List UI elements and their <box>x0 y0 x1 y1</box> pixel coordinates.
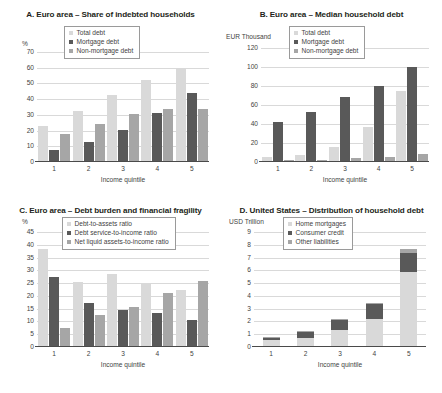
panel-a-bars <box>37 52 209 162</box>
panel-c-legend: Debt-to-assets ratio Debt service-to-inc… <box>62 217 176 250</box>
panel-a-ytick: 10 <box>27 143 34 150</box>
panel-a-title: A. Euro area – Share of indebted househo… <box>0 10 221 19</box>
legend-item-consumer-credit: Consumer credit <box>288 230 346 237</box>
panel-d-xtick: 1 <box>254 350 288 357</box>
panel-c-xtick: 4 <box>140 350 174 357</box>
panel-c-debt-burden-and-financial-fragility: C. Euro area – Debt burden and financial… <box>0 196 221 393</box>
legend-label: Consumer credit <box>296 230 344 237</box>
panel-c-ytick: 35 <box>27 254 34 261</box>
segment-home-mortgages <box>366 319 383 347</box>
panel-d-x-axis <box>252 346 426 347</box>
panel-b-ytick: 100 <box>247 64 258 71</box>
legend-item-mortgage-debt: Mortgage debt <box>294 39 358 46</box>
bar-mortgage-debt <box>152 113 162 162</box>
panel-c-xtick: 1 <box>37 350 71 357</box>
panel-c-title: C. Euro area – Debt burden and financial… <box>0 206 221 215</box>
legend-swatch-icon <box>67 222 71 226</box>
bar-mortgage-debt <box>84 142 94 162</box>
legend-swatch-icon <box>294 31 298 35</box>
panel-a-x-axis <box>35 161 209 162</box>
legend-swatch-icon <box>69 49 73 53</box>
bar-net-liquid-assets-to-income-ratio <box>95 315 105 347</box>
panel-c-xtick: 2 <box>71 350 105 357</box>
panel-b-ytick: 80 <box>251 83 258 90</box>
panel-b-x-axis-title: Income quintile <box>261 176 429 183</box>
panel-d-ytick: 1 <box>247 331 251 338</box>
legend-item-other-liabilities: Other liabilities <box>288 239 346 246</box>
panel-b-ytick: 0 <box>254 159 258 166</box>
bar-mortgage-debt <box>273 122 283 162</box>
panel-b-bars <box>261 48 429 162</box>
legend-label: Debt-to-assets ratio <box>75 221 133 228</box>
panel-a-ytick: 60 <box>27 64 34 71</box>
panel-b-xtick: 3 <box>328 165 362 172</box>
bar-mortgage-debt <box>340 97 350 162</box>
legend-label: Home mortgages <box>296 221 347 228</box>
bar-debt-service-to-income-ratio <box>187 320 197 347</box>
panel-a-ytick: 30 <box>27 112 34 119</box>
panel-c-x-axis-title: Income quintile <box>37 361 209 368</box>
legend-item-net-liquid-assets-to-income-ratio: Net liquid assets-to-income ratio <box>67 239 169 246</box>
segment-consumer-credit <box>400 253 417 272</box>
bar-mortgage-debt <box>118 130 128 162</box>
panel-b-title: B. Euro area – Median household debt <box>221 10 442 19</box>
legend-label: Other liabilities <box>296 239 339 246</box>
panel-c-ytick: 20 <box>27 293 34 300</box>
panel-d-ytick: 7 <box>247 254 251 261</box>
panel-b-xtick: 1 <box>261 165 295 172</box>
legend-item-mortgage-debt: Mortgage debt <box>69 39 133 46</box>
panel-b-bar-group <box>295 48 327 162</box>
stacked-bar <box>400 249 417 347</box>
segment-consumer-credit <box>331 320 348 330</box>
panel-c-xtick: 5 <box>175 350 209 357</box>
panel-d-xtick: 3 <box>323 350 357 357</box>
legend-swatch-icon <box>288 231 292 235</box>
panel-d-x-tick-labels: 1 2 3 4 5 <box>254 350 426 357</box>
bar-total-debt <box>363 127 373 162</box>
stacked-bar <box>331 319 348 347</box>
legend-swatch-icon <box>288 222 292 226</box>
bar-debt-service-to-income-ratio <box>118 310 128 347</box>
panel-d-ytick: 2 <box>247 318 251 325</box>
panel-d-xtick: 2 <box>288 350 322 357</box>
panel-d-legend: Home mortgages Consumer credit Other lia… <box>283 217 353 250</box>
panel-c-ytick: 45 <box>27 229 34 236</box>
panel-b-bar-group <box>262 48 294 162</box>
four-panel-chart-figure: A. Euro area – Share of indebted househo… <box>0 0 442 393</box>
panel-d-ytick: 8 <box>247 242 251 249</box>
panel-d-ytick: 3 <box>247 305 251 312</box>
legend-label: Debt service-to-income ratio <box>75 230 157 237</box>
legend-swatch-icon <box>69 31 73 35</box>
panel-a-bar-group <box>73 52 105 162</box>
panel-d-bar-group <box>263 232 280 347</box>
panel-b-xtick: 4 <box>362 165 396 172</box>
panel-b-y-axis-unit: EUR Thousand <box>226 33 271 40</box>
panel-c-y-axis-unit: % <box>22 218 28 225</box>
legend-item-home-mortgages: Home mortgages <box>288 221 346 228</box>
bar-mortgage-debt <box>407 67 417 162</box>
bar-debt-service-to-income-ratio <box>84 303 94 348</box>
bar-total-debt <box>38 126 48 163</box>
panel-c-ytick: 0 <box>30 344 34 351</box>
panel-a-bar-group <box>107 52 139 162</box>
bar-total-debt <box>329 147 339 162</box>
panel-d-ytick: 9 <box>247 229 251 236</box>
panel-a-ytick: 50 <box>27 80 34 87</box>
bar-debt-to-assets-ratio <box>141 283 151 347</box>
legend-swatch-icon <box>67 231 71 235</box>
bar-debt-to-assets-ratio <box>38 249 48 347</box>
panel-d-ytick: 6 <box>247 267 251 274</box>
panel-b-ytick: 20 <box>251 140 258 147</box>
panel-c-ytick: 15 <box>27 305 34 312</box>
panel-a-ytick: 0 <box>30 159 34 166</box>
panel-b-plot-area: 120 100 80 60 40 20 0 <box>261 48 429 162</box>
segment-home-mortgages <box>400 272 417 347</box>
legend-item-debt-to-assets-ratio: Debt-to-assets ratio <box>67 221 169 228</box>
bar-debt-to-assets-ratio <box>73 282 83 347</box>
bar-non-mortgage-debt <box>198 109 208 162</box>
panel-a-x-tick-labels: 1 2 3 4 5 <box>37 165 209 172</box>
legend-label: Mortgage debt <box>77 39 120 46</box>
legend-swatch-icon <box>69 40 73 44</box>
panel-a-plot-area: 70 60 50 40 30 20 10 0 <box>37 52 209 162</box>
bar-mortgage-debt <box>187 93 197 162</box>
